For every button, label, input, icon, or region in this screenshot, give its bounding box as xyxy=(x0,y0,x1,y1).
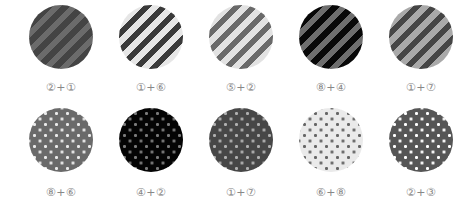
swatch-label: ②+① xyxy=(16,81,106,94)
swatch-dots-5: ②+③ xyxy=(376,104,466,204)
stripe-circle xyxy=(299,5,363,69)
swatch-stripes-4: ⑧+④ xyxy=(286,0,376,100)
swatch-dots-4: ⑥+⑧ xyxy=(286,104,376,204)
swatch-stripes-3: ⑤+② xyxy=(196,0,286,100)
stripe-circle xyxy=(29,5,93,69)
swatch-label: ⑧+④ xyxy=(286,81,376,94)
swatch-stripes-5: ①+⑦ xyxy=(376,0,466,100)
swatch-label: ①+⑦ xyxy=(196,186,286,199)
dot-circle xyxy=(299,108,363,172)
dot-circle xyxy=(29,108,93,172)
swatch-label: ①+⑦ xyxy=(376,81,466,94)
swatch-label: ①+⑥ xyxy=(106,81,196,94)
swatch-label: ⑥+⑧ xyxy=(286,186,376,199)
swatch-stripes-2: ①+⑥ xyxy=(106,0,196,100)
dot-circle xyxy=(389,108,453,172)
swatch-stripes-1: ②+① xyxy=(16,0,106,100)
stripe-circle xyxy=(389,5,453,69)
stripe-circle xyxy=(209,5,273,69)
swatch-dots-2: ④+② xyxy=(106,104,196,204)
dot-circle xyxy=(209,108,273,172)
swatch-grid: ②+① ①+⑥ ⑤+② ⑧+④ ①+⑦ ⑧+⑥ ④+② ①+⑦ ⑥+⑧ ②+③ xyxy=(0,0,474,204)
swatch-dots-3: ①+⑦ xyxy=(196,104,286,204)
swatch-label: ⑤+② xyxy=(196,81,286,94)
swatch-label: ⑧+⑥ xyxy=(16,186,106,199)
swatch-label: ②+③ xyxy=(376,186,466,199)
dot-circle xyxy=(119,108,183,172)
swatch-dots-1: ⑧+⑥ xyxy=(16,104,106,204)
swatch-label: ④+② xyxy=(106,186,196,199)
stripe-circle xyxy=(119,5,183,69)
